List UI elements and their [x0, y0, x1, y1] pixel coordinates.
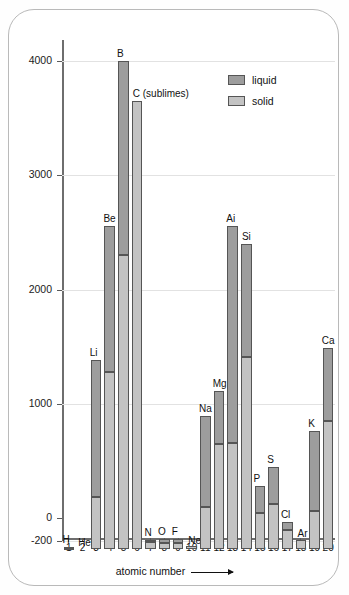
bar-label: B [117, 48, 124, 59]
plot-area [62, 61, 335, 538]
y-axis-tick-label: 2000 [0, 283, 52, 295]
bar-label: S [267, 454, 274, 465]
y-axis-tick-label: -200 [0, 534, 52, 546]
bar-segment-liquid [268, 467, 279, 504]
bar-label: Ca [322, 335, 335, 346]
y-axis-tick-label: 1000 [0, 397, 52, 409]
bar-segment-solid [186, 546, 197, 548]
bar-segment-solid [91, 497, 102, 548]
bar-segment-solid [132, 101, 143, 549]
y-axis-tick-label: 0 [0, 511, 52, 523]
bar-segment-solid [282, 530, 293, 549]
bar-label: Ar [298, 528, 308, 539]
bar-label: K [308, 418, 315, 429]
bar-segment-liquid [282, 522, 293, 530]
legend-swatch-solid [228, 96, 245, 106]
y-axis-tick-label: 4000 [0, 54, 52, 66]
bar-segment-liquid [104, 226, 115, 372]
bar-segment-liquid [159, 539, 170, 543]
bar-segment-liquid [323, 348, 334, 421]
bar-label: P [254, 473, 261, 484]
bar-segment-solid [118, 255, 129, 549]
bar-segment-solid [145, 542, 156, 549]
bar-segment-liquid [309, 431, 320, 511]
legend-swatch-liquid [228, 75, 245, 85]
bar-segment-liquid [91, 360, 102, 497]
legend-item: liquid [228, 74, 277, 86]
chart-legend: liquidsolid [228, 74, 277, 116]
bar-segment-liquid [255, 486, 266, 513]
chart-figure: -20001000200030004000 123456789101112131… [0, 0, 349, 595]
x-axis-title-text: atomic number [116, 565, 185, 577]
bar-label: Be [103, 213, 115, 224]
bar-label: Cl [281, 509, 290, 520]
bar-segment-liquid [64, 547, 75, 549]
bar-segment-liquid [118, 61, 129, 255]
legend-item: solid [228, 95, 277, 107]
bar-segment-solid [296, 540, 307, 549]
bar-segment-liquid [227, 226, 238, 443]
bar-segment-solid [173, 543, 184, 549]
bar-label: Ai [226, 213, 235, 224]
bar-segment-solid [268, 504, 279, 548]
legend-label: solid [252, 95, 274, 107]
bar-segment-solid [309, 511, 320, 549]
bar-label: C (sublimes) [133, 88, 189, 99]
bar-label: N [144, 527, 151, 538]
bar-segment-solid [214, 444, 225, 549]
bar-segment-solid [104, 372, 115, 549]
legend-label: liquid [252, 74, 277, 86]
bar-segment-solid [159, 543, 170, 549]
bar-segment-solid [255, 513, 266, 549]
bar-segment-solid [200, 507, 211, 549]
bar-label: Si [242, 231, 251, 242]
bar-label: Mg [213, 378, 227, 389]
x-axis-arrow-icon [191, 572, 233, 573]
y-axis-tick-label: 3000 [0, 168, 52, 180]
bar-segment-liquid [145, 540, 156, 542]
bar-segment-liquid [241, 244, 252, 357]
x-axis-title: atomic number [0, 565, 349, 577]
bar-label: Li [90, 347, 98, 358]
bar-segment-liquid [200, 416, 211, 506]
bar-label: Na [199, 403, 212, 414]
bar-label: He [78, 537, 91, 548]
bar-label: F [172, 526, 178, 537]
bar-segment-solid [323, 421, 334, 549]
bar-label: O [158, 526, 166, 537]
bar-segment-liquid [173, 539, 184, 543]
bar-segment-solid [241, 357, 252, 549]
bar-label: H [63, 534, 70, 545]
bar-segment-liquid [214, 391, 225, 444]
bar-segment-solid [227, 443, 238, 549]
